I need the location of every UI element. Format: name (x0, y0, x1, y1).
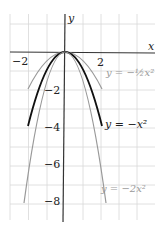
y-tick-neg2: −2 (44, 84, 60, 97)
x-axis (10, 52, 155, 53)
y-axis-label: y (68, 12, 74, 25)
x-tick-2: 2 (97, 56, 104, 69)
legend-half: y = −½x² (106, 67, 154, 78)
legend-one: y = −x² (105, 118, 147, 131)
x-tick-neg2: −2 (12, 55, 28, 68)
y-tick-neg4: −4 (44, 121, 60, 134)
y-tick-neg6: −6 (44, 158, 60, 171)
x-axis-label: x (148, 40, 154, 53)
y-tick-neg8: −8 (44, 195, 60, 208)
y-axis (63, 14, 65, 222)
legend-two: y = −2x² (101, 183, 146, 194)
